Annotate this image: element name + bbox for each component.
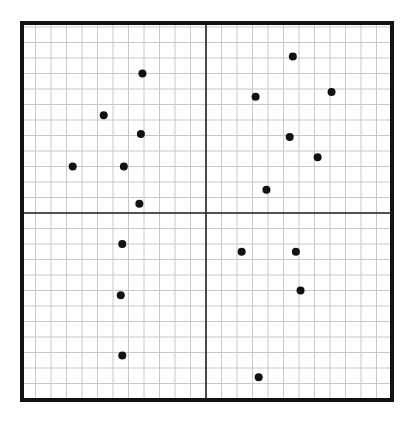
data-point — [289, 52, 297, 60]
data-point — [118, 352, 126, 360]
data-point — [137, 130, 145, 138]
data-point — [255, 373, 263, 381]
data-point — [297, 287, 305, 295]
plot-border — [22, 23, 392, 400]
data-point — [135, 200, 143, 208]
data-point — [118, 240, 126, 248]
data-point — [138, 70, 146, 78]
axes — [22, 23, 392, 400]
data-point — [328, 88, 336, 96]
data-point — [252, 93, 260, 101]
data-point — [292, 248, 300, 256]
data-point — [69, 163, 77, 171]
data-point — [100, 111, 108, 119]
data-point — [120, 163, 128, 171]
data-points — [69, 52, 336, 381]
data-point — [314, 153, 322, 161]
scatter-plot — [0, 0, 416, 426]
data-point — [262, 186, 270, 194]
data-point — [286, 133, 294, 141]
data-point — [238, 248, 246, 256]
data-point — [117, 291, 125, 299]
grid-lines — [22, 23, 392, 400]
